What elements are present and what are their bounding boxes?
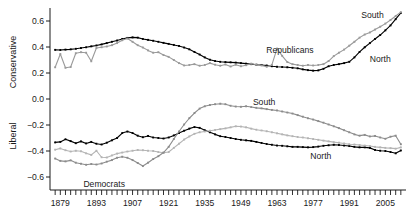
data-point bbox=[302, 116, 304, 118]
data-point bbox=[395, 18, 397, 20]
data-point bbox=[152, 150, 154, 152]
data-point bbox=[209, 130, 211, 132]
data-point bbox=[157, 151, 159, 153]
data-point bbox=[224, 61, 226, 63]
data-point bbox=[317, 139, 319, 141]
data-point bbox=[224, 136, 226, 138]
data-point bbox=[312, 70, 314, 72]
data-point bbox=[168, 146, 170, 148]
data-point bbox=[157, 137, 159, 139]
data-point bbox=[194, 126, 196, 128]
data-point bbox=[137, 37, 139, 39]
data-point bbox=[317, 146, 319, 148]
data-point bbox=[65, 149, 67, 151]
data-point bbox=[132, 159, 134, 161]
data-point bbox=[286, 145, 288, 147]
data-point bbox=[271, 131, 273, 133]
data-point bbox=[75, 48, 77, 50]
data-point bbox=[235, 125, 237, 127]
y-tick-label: 0.4 bbox=[32, 42, 44, 52]
data-point bbox=[90, 163, 92, 165]
data-point bbox=[333, 144, 335, 146]
data-point bbox=[183, 47, 185, 49]
data-point bbox=[261, 142, 263, 144]
data-point bbox=[194, 112, 196, 114]
data-point bbox=[70, 48, 72, 50]
data-point bbox=[183, 124, 185, 126]
data-point bbox=[400, 11, 402, 13]
data-point bbox=[245, 126, 247, 128]
data-point bbox=[163, 152, 165, 154]
data-point bbox=[286, 134, 288, 136]
data-point bbox=[400, 143, 402, 145]
data-point bbox=[219, 135, 221, 137]
chart-canvas: 0.60.40.20.0−0.2−0.4−0.61879189319071921… bbox=[0, 0, 413, 224]
data-point bbox=[85, 46, 87, 48]
series-republicans-north bbox=[54, 12, 402, 72]
annotation-south: South bbox=[253, 97, 276, 107]
data-point bbox=[65, 138, 67, 140]
series-line bbox=[55, 12, 401, 68]
data-point bbox=[261, 107, 263, 109]
data-point bbox=[338, 52, 340, 54]
data-point bbox=[353, 144, 355, 146]
annotation-north: North bbox=[370, 54, 391, 64]
data-point bbox=[281, 145, 283, 147]
data-point bbox=[230, 66, 232, 68]
annotation-republicans: Republicans bbox=[266, 45, 313, 55]
data-point bbox=[54, 66, 56, 68]
data-point bbox=[266, 130, 268, 132]
data-point bbox=[312, 146, 314, 148]
data-point bbox=[178, 45, 180, 47]
data-point bbox=[390, 24, 392, 26]
data-point bbox=[152, 158, 154, 160]
data-point bbox=[214, 64, 216, 66]
data-point bbox=[235, 64, 237, 66]
data-point bbox=[178, 143, 180, 145]
data-point bbox=[157, 155, 159, 157]
data-point bbox=[204, 56, 206, 58]
data-point bbox=[379, 26, 381, 28]
data-point bbox=[271, 64, 273, 66]
data-point bbox=[312, 138, 314, 140]
data-point bbox=[168, 137, 170, 139]
data-point bbox=[328, 60, 330, 62]
series-layer bbox=[54, 11, 402, 167]
data-point bbox=[338, 63, 340, 65]
data-point bbox=[230, 126, 232, 128]
data-point bbox=[369, 135, 371, 137]
data-point bbox=[173, 134, 175, 136]
data-point bbox=[369, 42, 371, 44]
data-point bbox=[250, 106, 252, 108]
data-point bbox=[333, 55, 335, 57]
data-point bbox=[240, 139, 242, 141]
data-point bbox=[152, 137, 154, 139]
y-axis-title-conservative: Conservative bbox=[8, 36, 18, 89]
data-point bbox=[183, 139, 185, 141]
data-point bbox=[302, 65, 304, 67]
data-point bbox=[328, 140, 330, 142]
data-point bbox=[132, 36, 134, 38]
data-point bbox=[178, 131, 180, 133]
data-point bbox=[70, 140, 72, 142]
data-point bbox=[65, 160, 67, 162]
data-point bbox=[384, 29, 386, 31]
data-point bbox=[80, 47, 82, 49]
data-point bbox=[194, 133, 196, 135]
data-point bbox=[276, 109, 278, 111]
data-point bbox=[286, 61, 288, 63]
data-point bbox=[276, 132, 278, 134]
data-point bbox=[173, 138, 175, 140]
data-point bbox=[95, 47, 97, 49]
data-point bbox=[374, 29, 376, 31]
data-point bbox=[379, 137, 381, 139]
data-point bbox=[106, 42, 108, 44]
data-point bbox=[261, 65, 263, 67]
data-point bbox=[59, 49, 61, 51]
data-point bbox=[328, 65, 330, 67]
data-point bbox=[359, 146, 361, 148]
data-point bbox=[147, 150, 149, 152]
data-point bbox=[374, 146, 376, 148]
data-point bbox=[173, 44, 175, 46]
data-point bbox=[54, 149, 56, 151]
